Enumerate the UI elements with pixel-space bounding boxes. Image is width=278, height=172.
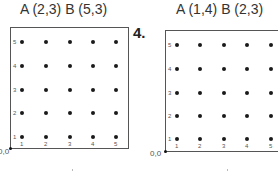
grid-dot <box>44 64 48 68</box>
grid-dot <box>269 114 273 118</box>
x-tick-label: 5 <box>269 143 272 149</box>
grid-dot <box>20 135 24 139</box>
grid-dot <box>269 137 273 141</box>
x-tick-label: 3 <box>222 143 225 149</box>
origin-dot <box>164 150 167 153</box>
grid-dot <box>222 67 226 71</box>
x-tick-label: 4 <box>91 141 94 147</box>
grid-dot <box>20 64 24 68</box>
grid-dot <box>114 64 118 68</box>
grid-dot <box>269 67 273 71</box>
grid-dot <box>175 43 179 47</box>
grid-dot <box>68 64 72 68</box>
grid-dot <box>68 88 72 92</box>
grid-dot <box>114 111 118 115</box>
grid-dot <box>245 91 249 95</box>
grid-dot <box>222 137 226 141</box>
grid-dot <box>198 91 202 95</box>
y-tick-label: 4 <box>13 63 16 69</box>
grid-dot <box>68 40 72 44</box>
grid-dot <box>44 135 48 139</box>
grid-dot <box>222 91 226 95</box>
grid-dot <box>198 67 202 71</box>
problem-title: A (2,3) B (5,3) <box>20 1 107 17</box>
grid-dot <box>91 40 95 44</box>
grid-dot <box>44 40 48 44</box>
grid-dot <box>198 114 202 118</box>
x-tick-label: 2 <box>44 141 47 147</box>
x-tick-label: 4 <box>245 143 248 149</box>
cropped-mark <box>227 169 228 171</box>
y-tick-label: 5 <box>168 42 171 48</box>
grid-dot <box>68 135 72 139</box>
grid-dot <box>175 91 179 95</box>
grid-dot <box>91 64 95 68</box>
y-tick-label: 2 <box>13 110 16 116</box>
grid-dot <box>222 43 226 47</box>
grid-dot <box>114 40 118 44</box>
x-tick-label: 1 <box>175 143 178 149</box>
grid-dot <box>269 43 273 47</box>
y-tick-label: 4 <box>168 66 171 72</box>
grid-dot <box>245 43 249 47</box>
x-tick-label: 1 <box>20 141 23 147</box>
origin-dot <box>9 147 12 150</box>
grid-dot <box>175 114 179 118</box>
grid-dot <box>20 111 24 115</box>
x-tick-label: 3 <box>68 141 71 147</box>
grid-dot <box>44 111 48 115</box>
problem-number: 4. <box>133 24 146 41</box>
grid-dot <box>114 135 118 139</box>
y-tick-label: 3 <box>168 90 171 96</box>
y-tick-label: 1 <box>13 134 16 140</box>
origin-label: 0,0 <box>0 147 9 156</box>
grid-dot <box>269 91 273 95</box>
grid-dot <box>91 111 95 115</box>
grid-dot <box>245 67 249 71</box>
grid-dot <box>114 88 118 92</box>
grid-dot <box>198 137 202 141</box>
grid-dot <box>175 137 179 141</box>
grid-dot <box>245 114 249 118</box>
x-tick-label: 5 <box>114 141 117 147</box>
grid-dot <box>91 135 95 139</box>
x-tick-label: 2 <box>198 143 201 149</box>
grid-dot <box>20 40 24 44</box>
grid-dot <box>175 67 179 71</box>
origin-label: 0,0 <box>150 149 161 158</box>
grid-dot <box>68 111 72 115</box>
grid-dot <box>222 114 226 118</box>
y-tick-label: 3 <box>13 87 16 93</box>
y-tick-label: 2 <box>168 113 171 119</box>
cropped-mark <box>72 169 73 171</box>
grid-dot <box>44 88 48 92</box>
y-tick-label: 5 <box>13 39 16 45</box>
grid-dot <box>20 88 24 92</box>
y-tick-label: 1 <box>168 136 171 142</box>
problem-title: A (1,4) B (2,3) <box>176 1 263 17</box>
grid-dot <box>91 88 95 92</box>
grid-dot <box>198 43 202 47</box>
grid-dot <box>245 137 249 141</box>
